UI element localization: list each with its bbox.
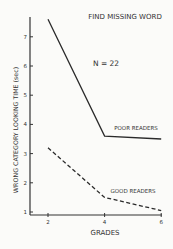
sample-size-annotation: N = 22: [93, 59, 119, 68]
good-readers-line: [48, 148, 161, 211]
x-tick-label: 6: [159, 219, 163, 225]
y-tick-label: 4: [24, 121, 28, 127]
line-chart: 1234567 246 FIND MISSING WORD N = 22 POO…: [0, 0, 173, 249]
axes: [30, 17, 162, 215]
y-tick-label: 3: [24, 151, 28, 157]
good-readers-label: GOOD READERS: [111, 188, 156, 194]
poor-readers-label: POOR READERS: [114, 125, 158, 131]
y-tick-label: 5: [24, 92, 28, 98]
y-tick-label: 7: [24, 34, 28, 40]
chart-title: FIND MISSING WORD: [88, 13, 162, 21]
x-axis-label: GRADES: [90, 229, 120, 237]
poor-readers-line: [48, 19, 161, 139]
y-ticks: 1234567: [24, 34, 34, 215]
x-tick-label: 4: [103, 219, 107, 225]
y-tick-label: 2: [24, 180, 28, 186]
y-tick-label: 6: [24, 63, 28, 69]
series: [48, 19, 161, 210]
x-tick-label: 2: [46, 219, 50, 225]
y-axis-label: WRONG CATEGORY LOOKING TIME (sec): [12, 67, 19, 193]
y-tick-label: 1: [24, 209, 28, 215]
